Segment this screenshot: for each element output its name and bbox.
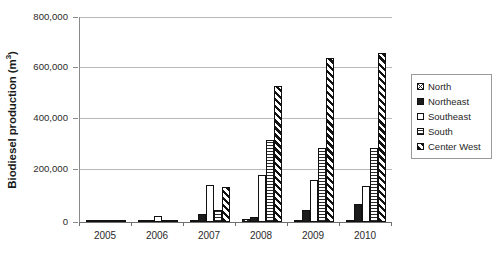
- x-tick-label-2010: 2010: [339, 231, 391, 241]
- bar-group-2008: [242, 17, 288, 222]
- bar-2008-northeast: [250, 217, 258, 222]
- x-tick-mark-2007-2008: [235, 222, 236, 226]
- bar-2006-southeast: [154, 216, 162, 222]
- bar-2010-south: [370, 148, 378, 222]
- bar-2010-centerwest: [378, 53, 386, 222]
- chart-legend: North Northeast Southeast South Center W…: [411, 74, 492, 159]
- bar-2010-southeast: [362, 186, 370, 222]
- y-tick-mark-400000: [73, 118, 78, 119]
- legend-swatch-north-icon: [417, 83, 424, 90]
- bar-2005-northeast: [94, 220, 102, 222]
- x-tick-mark-end: [391, 222, 392, 226]
- bar-2008-north: [242, 219, 250, 222]
- legend-swatch-centerwest-icon: [417, 143, 424, 150]
- x-tick-mark-2006-2007: [183, 222, 184, 226]
- y-tick-mark-600000: [73, 67, 78, 68]
- bar-2007-centerwest: [222, 187, 230, 222]
- plot-area: [79, 17, 392, 223]
- bar-2009-north: [294, 220, 302, 222]
- legend-item-centerwest: Center West: [417, 140, 487, 153]
- bar-2009-northeast: [302, 210, 310, 222]
- y-axis-title-superscript: 3: [4, 55, 13, 59]
- x-tick-mark-2008-2009: [287, 222, 288, 226]
- bar-group-2010: [346, 17, 392, 222]
- y-tick-mark-800000: [73, 17, 78, 18]
- bar-2008-southeast: [258, 175, 266, 222]
- bar-2006-northeast: [146, 220, 154, 222]
- y-tick-label-400000: 400,000: [6, 113, 68, 123]
- legend-label-north: North: [428, 82, 451, 92]
- bar-2006-north: [138, 220, 146, 222]
- bar-2009-centerwest: [326, 58, 334, 222]
- bar-2005-north: [86, 220, 94, 222]
- legend-swatch-south-icon: [417, 128, 424, 135]
- chart-figure: Biodiesel production (m3) 800,000 600,00…: [0, 0, 498, 261]
- legend-item-northeast: Northeast: [417, 95, 487, 108]
- bar-2010-north: [346, 220, 354, 222]
- bar-group-2007: [190, 17, 236, 222]
- bar-2008-centerwest: [274, 86, 282, 222]
- y-tick-label-800000: 800,000: [6, 12, 68, 22]
- x-tick-mark-2009-2010: [339, 222, 340, 226]
- bar-2007-northeast: [198, 214, 206, 222]
- legend-item-south: South: [417, 125, 487, 138]
- bar-group-2006: [138, 17, 184, 222]
- x-tick-label-2006: 2006: [131, 231, 183, 241]
- legend-label-centerwest: Center West: [428, 142, 481, 152]
- x-tick-label-2005: 2005: [79, 231, 131, 241]
- bar-2009-south: [318, 148, 326, 222]
- bar-2007-south: [214, 210, 222, 222]
- x-tick-mark-start: [79, 222, 80, 226]
- bar-2006-south: [162, 220, 170, 222]
- x-tick-label-2008: 2008: [235, 231, 287, 241]
- bar-2010-northeast: [354, 204, 362, 222]
- y-tick-mark-200000: [73, 169, 78, 170]
- y-tick-label-0: 0: [6, 217, 68, 227]
- legend-item-southeast: Southeast: [417, 110, 487, 123]
- x-tick-mark-2005-2006: [131, 222, 132, 226]
- bar-2008-south: [266, 140, 274, 222]
- bar-2007-southeast: [206, 185, 214, 222]
- y-axis-title-suffix: ): [6, 51, 18, 55]
- legend-swatch-northeast-icon: [417, 98, 424, 105]
- bar-2007-north: [190, 220, 198, 222]
- x-tick-label-2009: 2009: [287, 231, 339, 241]
- bar-2005-centerwest: [118, 220, 126, 222]
- legend-label-northeast: Northeast: [428, 97, 469, 107]
- y-tick-label-200000: 200,000: [6, 164, 68, 174]
- x-tick-label-2007: 2007: [183, 231, 235, 241]
- bar-group-2005: [86, 17, 132, 222]
- legend-item-north: North: [417, 80, 487, 93]
- bar-2006-centerwest: [170, 220, 178, 222]
- bar-2005-southeast: [102, 220, 110, 222]
- bar-2009-southeast: [310, 180, 318, 222]
- legend-swatch-southeast-icon: [417, 113, 424, 120]
- bar-group-2009: [294, 17, 340, 222]
- y-tick-label-600000: 600,000: [6, 62, 68, 72]
- legend-label-south: South: [428, 127, 453, 137]
- bar-2005-south: [110, 220, 118, 222]
- legend-label-southeast: Southeast: [428, 112, 471, 122]
- y-tick-mark-0: [73, 222, 78, 223]
